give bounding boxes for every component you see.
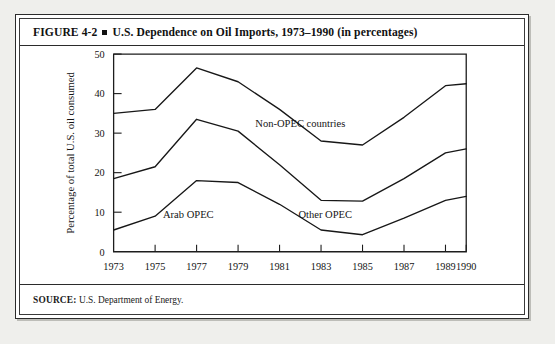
x-tick-label: 1987 (394, 261, 414, 272)
y-tick-label: 10 (94, 207, 104, 218)
y-axis-title: Percentage of total U.S. oil consumed (65, 71, 76, 233)
plot-area: 01020304050Percentage of total U.S. oil … (20, 46, 524, 284)
y-tick-label: 30 (94, 128, 104, 139)
y-tick-label: 0 (100, 247, 105, 258)
x-tick-label: 1985 (352, 261, 372, 272)
y-tick-label: 50 (94, 49, 104, 60)
source-value: U.S. Department of Energy. (79, 295, 183, 305)
figure-root: FIGURE 4-2U.S. Dependence on Oil Imports… (0, 0, 555, 344)
bullet-separator-icon (102, 30, 107, 35)
x-tick-label: 1975 (145, 261, 165, 272)
figure-caption-bar: FIGURE 4-2U.S. Dependence on Oil Imports… (20, 19, 524, 46)
series-line (114, 181, 467, 235)
figure-frame: FIGURE 4-2U.S. Dependence on Oil Imports… (15, 14, 529, 319)
series-annotation: Other OPEC (298, 209, 352, 220)
x-tick-label: 1989 (435, 261, 455, 272)
series-annotation: Arab OPEC (163, 209, 214, 220)
figure-title: U.S. Dependence on Oil Imports, 1973–199… (112, 26, 417, 39)
y-tick-label: 40 (94, 88, 104, 99)
series-annotation: Non-OPEC countries (255, 118, 345, 129)
series-line (114, 119, 467, 201)
x-tick-label: 1977 (186, 261, 206, 272)
series-line (114, 68, 467, 145)
x-tick-label: 1973 (103, 261, 123, 272)
line-chart: 01020304050Percentage of total U.S. oil … (20, 46, 524, 284)
figure-source: SOURCE: U.S. Department of Energy. (33, 295, 183, 305)
figure-source-bar: SOURCE: U.S. Department of Energy. (20, 284, 524, 314)
x-tick-label: 1990 (456, 261, 476, 272)
x-tick-label: 1979 (228, 261, 248, 272)
x-tick-label: 1983 (311, 261, 331, 272)
x-tick-label: 1981 (269, 261, 289, 272)
source-label: SOURCE: (33, 295, 77, 305)
figure-number: FIGURE 4-2 (33, 26, 97, 39)
figure-caption: FIGURE 4-2U.S. Dependence on Oil Imports… (33, 26, 418, 39)
y-tick-label: 20 (94, 167, 104, 178)
